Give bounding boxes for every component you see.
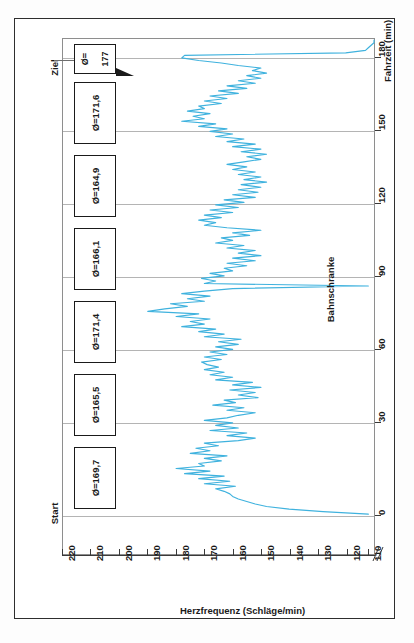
avg-label: Ø=165,5 [90, 387, 101, 424]
avg-box-section-2: Ø=165,5 [74, 374, 116, 436]
tick-mark [261, 549, 262, 555]
tick-label-180: 180 [180, 545, 191, 561]
tick-label-140: 140 [294, 545, 305, 561]
tick-label-0: 0 [376, 485, 387, 515]
tick-mark [347, 549, 348, 555]
tick-mark [119, 549, 120, 555]
fahrzeit-axis: 180 150 120 90 60 30 0 [375, 38, 414, 555]
tick-mark [375, 203, 381, 204]
tick-label-210: 210 [94, 545, 105, 561]
tick-mark [233, 549, 234, 555]
goal-average-line1: Ø= [80, 53, 90, 65]
tick-label-30: 30 [376, 392, 387, 422]
goal-callout-tail [116, 68, 134, 76]
label-bahnschranke: Bahnschranke [325, 257, 336, 322]
fahrzeit-axis-title: Fahrzeit (min) [382, 20, 393, 82]
label-ziel: Ziel [49, 59, 60, 75]
tick-mark [176, 549, 177, 555]
tick-label-150: 150 [376, 100, 387, 130]
tick-label-220: 220 [66, 545, 77, 561]
avg-label: Ø=169,7 [90, 460, 101, 497]
avg-box-section-3: Ø=171,4 [74, 301, 116, 363]
avg-box-section-1: Ø=169,7 [74, 447, 116, 509]
tick-label-120: 120 [351, 545, 362, 561]
heart-rate-chart: 180 150 120 90 60 30 0 Fahrzeit (min) Zi… [30, 38, 382, 555]
tick-mark [90, 549, 91, 555]
avg-box-section-4: Ø=166,1 [74, 228, 116, 290]
goal-average-line2: 177 [100, 51, 110, 66]
avg-box-section-5: Ø=164,9 [74, 155, 116, 217]
goal-average-box: Ø= 177 [74, 44, 116, 74]
tick-label-150: 150 [265, 545, 276, 561]
tick-label-200: 200 [123, 545, 134, 561]
avg-label: Ø=164,9 [90, 168, 101, 205]
tick-label-170: 170 [208, 545, 219, 561]
tick-label-90: 90 [376, 246, 387, 276]
tick-mark [375, 515, 381, 516]
tick-label-130: 130 [322, 545, 333, 561]
tick-mark [290, 549, 291, 555]
avg-label: Ø=166,1 [90, 241, 101, 278]
axis-break-icon [370, 546, 384, 562]
tick-mark [147, 549, 148, 555]
tick-label-60: 60 [376, 319, 387, 349]
tick-label-190: 190 [151, 545, 162, 561]
herzfrequenz-axis: 220 210 200 190 180 170 160 150 140 130 … [30, 555, 382, 635]
label-start: Start [49, 503, 60, 525]
tick-label-120: 120 [376, 173, 387, 203]
tick-mark [375, 422, 381, 423]
tick-mark [62, 549, 63, 555]
tick-mark [375, 57, 381, 58]
document-page: 180 150 120 90 60 30 0 Fahrzeit (min) Zi… [0, 0, 414, 643]
avg-label: Ø=171,4 [90, 314, 101, 351]
avg-box-section-6: Ø=171,6 [74, 82, 116, 144]
tick-mark [375, 349, 381, 350]
tick-mark [318, 549, 319, 555]
tick-label-160: 160 [237, 545, 248, 561]
tick-mark [375, 276, 381, 277]
ziel-leader-line [54, 60, 76, 61]
tick-mark [375, 130, 381, 131]
herzfrequenz-axis-title: Herzfrequenz (Schläge/min) [180, 605, 305, 616]
tick-mark [368, 549, 369, 555]
avg-label: Ø=171,6 [90, 95, 101, 132]
tick-mark [204, 549, 205, 555]
